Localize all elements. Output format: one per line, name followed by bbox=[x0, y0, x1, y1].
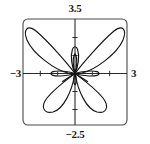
x-min-label: −3 bbox=[1, 68, 21, 79]
plot-svg bbox=[22, 18, 128, 126]
polar-graph-figure: 3.5 −3 3 −2.5 bbox=[0, 0, 150, 144]
y-min-label: −2.5 bbox=[0, 129, 150, 140]
plot-area bbox=[22, 18, 128, 126]
y-max-label: 3.5 bbox=[0, 3, 150, 14]
x-max-label: 3 bbox=[131, 68, 149, 79]
